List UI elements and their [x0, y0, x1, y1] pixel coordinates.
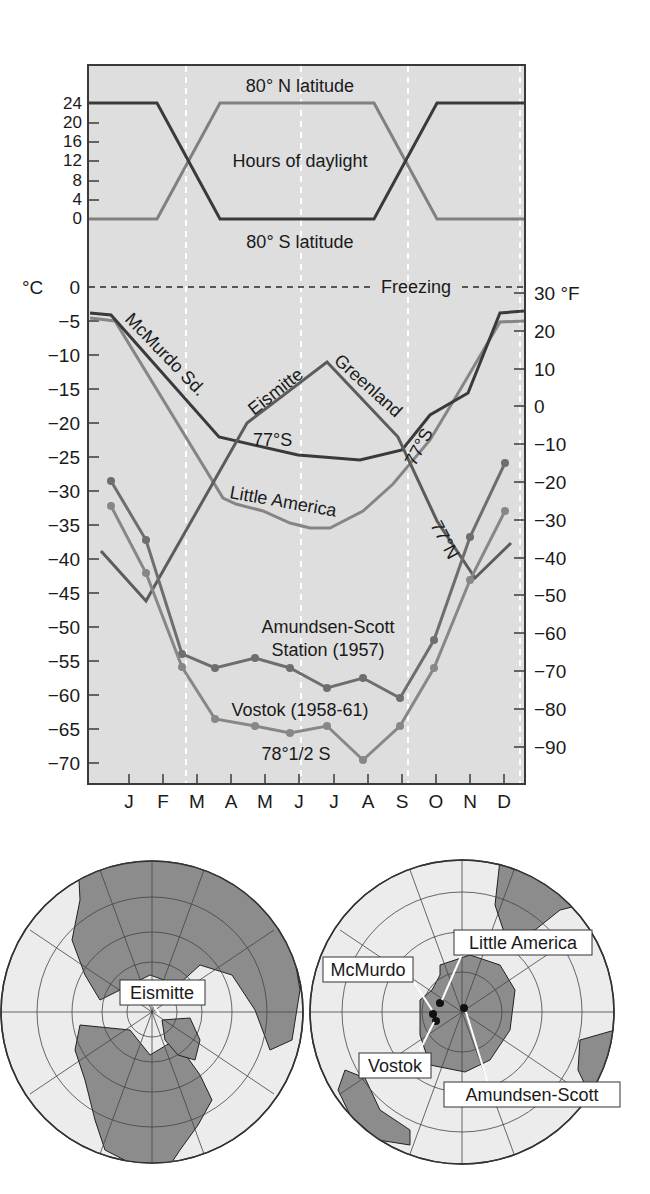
svg-text:−10: −10: [48, 345, 80, 366]
svg-text:20: 20: [63, 113, 82, 132]
svg-text:−55: −55: [48, 651, 80, 672]
label-amundsen-1: Amundsen-Scott: [261, 617, 394, 637]
daylight-mid-label: Hours of daylight: [232, 151, 367, 171]
svg-text:−20: −20: [48, 413, 80, 434]
svg-text:−15: −15: [48, 379, 80, 400]
label-amundsen-2: Station (1957): [271, 640, 384, 660]
celsius-unit: °C: [22, 277, 43, 298]
svg-text:−90: −90: [534, 737, 566, 758]
freezing-label: Freezing: [381, 277, 451, 297]
map-label-little-america: Little America: [469, 933, 578, 953]
svg-text:−40: −40: [534, 548, 566, 569]
svg-text:12: 12: [63, 151, 82, 170]
svg-text:10: 10: [534, 359, 555, 380]
svg-text:−70: −70: [534, 661, 566, 682]
map-label-mcmurdo: McMurdo: [330, 960, 405, 980]
svg-text:−10: −10: [534, 434, 566, 455]
svg-text:0: 0: [69, 277, 80, 298]
svg-text:−5: −5: [58, 311, 80, 332]
fahrenheit-labels: 30 °F 20 10 0 −10 −20 −30 −40 −50 −60 −7…: [534, 283, 580, 758]
svg-text:−50: −50: [48, 617, 80, 638]
svg-text:30 °F: 30 °F: [534, 283, 580, 304]
svg-text:−80: −80: [534, 699, 566, 720]
svg-text:4: 4: [73, 190, 82, 209]
north-polar-map: Eismitte: [0, 855, 304, 1168]
svg-text:−30: −30: [48, 481, 80, 502]
figure: 24 20 16 12 8 4 0 80° N latitude Hours o…: [0, 0, 650, 1194]
label-vostok: Vostok (1958-61): [231, 700, 368, 720]
svg-text:J: J: [124, 791, 134, 812]
svg-text:−40: −40: [48, 549, 80, 570]
svg-text:A: A: [225, 791, 238, 812]
svg-text:−65: −65: [48, 719, 80, 740]
svg-text:−35: −35: [48, 515, 80, 536]
map-label-eismitte: Eismitte: [130, 983, 194, 1003]
month-labels: J F M A M J J A S O N D: [124, 791, 511, 812]
svg-text:−30: −30: [534, 510, 566, 531]
map-label-amundsen-scott: Amundsen-Scott: [465, 1085, 598, 1105]
svg-text:16: 16: [63, 132, 82, 151]
svg-text:0: 0: [534, 396, 545, 417]
svg-text:M: M: [257, 791, 273, 812]
svg-text:A: A: [362, 791, 375, 812]
svg-text:−50: −50: [534, 585, 566, 606]
svg-text:24: 24: [63, 94, 82, 113]
svg-text:M: M: [189, 791, 205, 812]
label-vostok-lat: 78°1/2 S: [261, 744, 330, 764]
daylight-top-label: 80° N latitude: [246, 76, 354, 96]
svg-text:−60: −60: [48, 685, 80, 706]
svg-text:O: O: [429, 791, 444, 812]
svg-text:S: S: [396, 791, 409, 812]
celsius-labels: 0 −5 −10 −15 −20 −25 −30 −35 −40 −45 −50…: [48, 277, 80, 774]
svg-text:F: F: [157, 791, 169, 812]
svg-text:−20: −20: [534, 472, 566, 493]
svg-text:8: 8: [73, 171, 82, 190]
svg-text:20: 20: [534, 321, 555, 342]
south-polar-map: Little America McMurdo Vostok Amundsen-S…: [310, 860, 620, 1164]
svg-text:J: J: [294, 791, 304, 812]
daylight-bottom-label: 80° S latitude: [246, 232, 353, 252]
svg-text:0: 0: [73, 209, 82, 228]
svg-text:−70: −70: [48, 753, 80, 774]
map-label-vostok: Vostok: [368, 1056, 423, 1076]
svg-text:J: J: [329, 791, 339, 812]
svg-text:−60: −60: [534, 623, 566, 644]
svg-text:N: N: [463, 791, 477, 812]
svg-text:−25: −25: [48, 447, 80, 468]
svg-text:−45: −45: [48, 583, 80, 604]
svg-text:D: D: [497, 791, 511, 812]
daylight-axis-labels: 24 20 16 12 8 4 0: [63, 94, 82, 228]
label-mcmurdo-lat: 77°S: [253, 430, 292, 450]
